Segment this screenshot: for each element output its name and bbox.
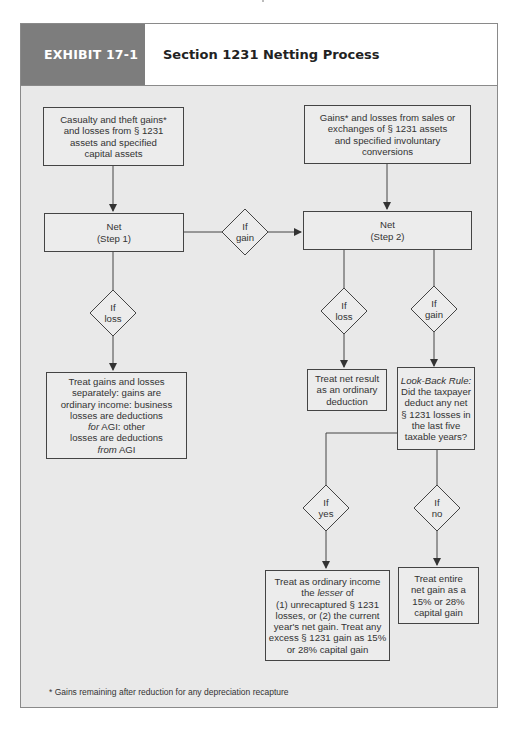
node-net-step1: Net (Step 1) xyxy=(44,213,184,252)
node-casualty-theft-text: Casualty and theft gains* and losses fro… xyxy=(60,114,167,159)
treat-separately-line4: losses are deductions xyxy=(61,410,172,421)
ordinary-income-lesser: lesser xyxy=(317,587,343,598)
node-net-step2-text: Net (Step 2) xyxy=(370,219,404,241)
node-ordinary-income: Treat as ordinary income the lesser of (… xyxy=(265,570,390,661)
node-net-step2: Net (Step 2) xyxy=(303,211,472,250)
treat-separately-from: from xyxy=(98,444,117,455)
node-treat-separately: Treat gains and losses separately: gains… xyxy=(46,372,187,459)
decision-step2-loss-label: If loss xyxy=(329,300,359,322)
node-sales-exchanges: Gains* and losses from sales or exchange… xyxy=(304,105,471,164)
ordinary-income-the: the xyxy=(301,587,317,598)
node-sales-exchanges-text: Gains* and losses from sales or exchange… xyxy=(320,112,455,157)
decision-step2-gain-label: If gain xyxy=(419,298,449,320)
treat-separately-line1: Treat gains and losses xyxy=(61,376,172,387)
treat-separately-line6: losses are deductions xyxy=(61,432,172,443)
node-capital-gain: Treat entire net gain as a 15% or 28% ca… xyxy=(398,567,479,624)
footnote: * Gains remaining after reduction for an… xyxy=(49,687,289,697)
treat-separately-line3: ordinary income: business xyxy=(61,399,172,410)
treat-separately-for-rest: AGI: other xyxy=(99,421,145,432)
decision-lookback-yes-label: If yes xyxy=(311,497,341,519)
treat-separately-for: for xyxy=(88,421,99,432)
decision-step1-gain-label: If gain xyxy=(230,221,260,243)
node-lookback-rule: Look-Back Rule: Did the taxpayer deduct … xyxy=(397,367,475,450)
treat-separately-line2: separately: gains are xyxy=(61,387,172,398)
node-ordinary-deduction-text: Treat net result as an ordinary deductio… xyxy=(315,373,379,407)
lookback-title: Look-Back Rule: xyxy=(401,375,471,386)
node-ordinary-deduction: Treat net result as an ordinary deductio… xyxy=(307,369,387,411)
decision-step1-loss-label: If loss xyxy=(98,302,128,324)
ordinary-income-line1: Treat as ordinary income xyxy=(269,576,386,587)
ordinary-income-rest: (1) unrecaptured § 1231 losses, or (2) t… xyxy=(269,599,386,655)
ordinary-income-of: of xyxy=(343,587,354,598)
node-casualty-theft: Casualty and theft gains* and losses fro… xyxy=(43,107,184,166)
decision-lookback-no-label: If no xyxy=(422,497,452,519)
node-net-step1-text: Net (Step 1) xyxy=(97,221,131,243)
lookback-body: Did the taxpayer deduct any net § 1231 l… xyxy=(401,386,471,442)
node-capital-gain-text: Treat entire net gain as a 15% or 28% ca… xyxy=(411,573,466,618)
treat-separately-from-rest: AGI xyxy=(117,444,136,455)
